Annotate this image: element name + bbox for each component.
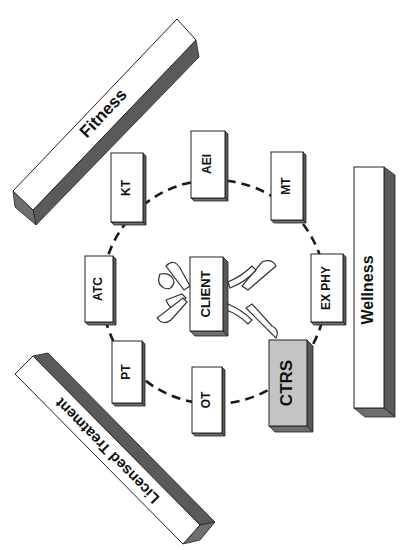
node-ot: OT [192,367,225,436]
wellness-label: Wellness [359,255,376,324]
diagram-canvas: Fitness Licensed Treatment Wellness KT [0,0,407,550]
category-bar-fitness: Fitness [13,19,199,225]
node-atc-label: ATC [91,277,105,301]
node-mt-label: MT [279,177,293,195]
node-pt: PT [112,341,145,406]
node-client: CLIENT [190,257,228,336]
node-ot-label: OT [199,391,213,408]
category-bar-wellness: Wellness [354,167,395,417]
node-kt: KT [111,153,146,225]
node-mt: MT [271,152,306,223]
node-aei-label: AEI [200,154,214,174]
node-client-label: CLIENT [198,270,213,317]
node-ctrs-label: CTRS [277,360,296,406]
node-ex-phy: EX PHY [311,254,346,325]
node-pt-label: PT [119,364,133,380]
licensed-treatment-label: Licensed Treatment [51,395,162,507]
node-ctrs: CTRS [269,340,313,432]
node-ex-phy-label: EX PHY [319,266,333,310]
node-aei: AEI [191,131,228,201]
node-kt-label: KT [119,179,133,196]
node-atc: ATC [85,256,116,325]
